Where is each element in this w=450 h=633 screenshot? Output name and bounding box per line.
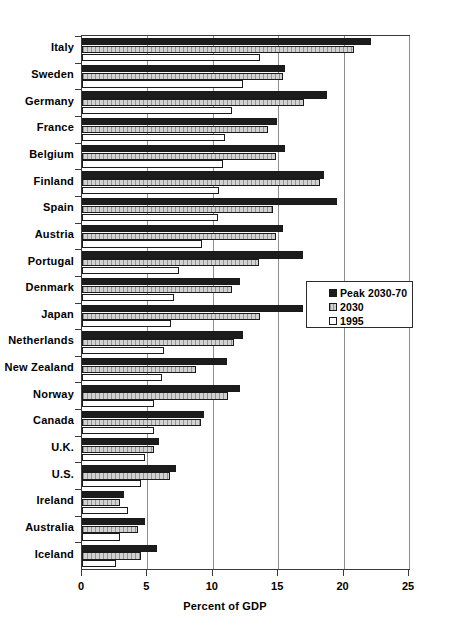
bar	[82, 73, 283, 80]
y-axis-label-iceland: Iceland	[35, 548, 74, 560]
y-axis-label-sweden: Sweden	[31, 68, 74, 80]
y-axis-label-portugal: Portugal	[28, 255, 74, 267]
bar	[82, 54, 260, 61]
bar-group	[82, 249, 409, 276]
bar	[82, 286, 232, 293]
y-axis-label-finland: Finland	[33, 175, 74, 187]
y-axis-tick	[75, 356, 81, 357]
y-axis-label-u-s-: U.S.	[52, 468, 74, 480]
bar	[82, 374, 162, 381]
bar	[82, 533, 120, 540]
bar-group	[82, 382, 409, 409]
bar	[82, 198, 337, 205]
bar	[82, 278, 240, 285]
bar	[82, 160, 223, 167]
y-axis-label-australia: Australia	[25, 521, 74, 533]
bar	[82, 339, 234, 346]
bar	[82, 313, 260, 320]
y-axis-label-france: France	[37, 121, 74, 133]
bar	[82, 65, 285, 72]
bar	[82, 91, 327, 98]
y-axis-label-ireland: Ireland	[37, 494, 74, 506]
x-axis-tick-label: 5	[126, 580, 166, 592]
y-axis-tick	[75, 249, 81, 250]
bar-group	[82, 89, 409, 116]
y-axis-label-austria: Austria	[35, 228, 74, 240]
bar-group	[82, 436, 409, 463]
bar	[82, 118, 277, 125]
bar-group	[82, 223, 409, 250]
bar	[82, 331, 243, 338]
y-axis-tick	[75, 409, 81, 410]
y-axis-tick	[75, 436, 81, 437]
bar	[82, 358, 227, 365]
y-axis-tick	[75, 116, 81, 117]
bar-group	[82, 169, 409, 196]
y-axis-label-u-k-: U.K.	[51, 441, 74, 453]
legend-item: 2030	[329, 300, 412, 313]
y-axis-tick	[75, 489, 81, 490]
bar-group	[82, 329, 409, 356]
bar-group	[82, 409, 409, 436]
y-axis-label-germany: Germany	[25, 95, 74, 107]
y-axis-tick	[75, 276, 81, 277]
bar-group	[82, 462, 409, 489]
x-axis-tick-label: 0	[61, 580, 101, 592]
y-axis-label-italy: Italy	[51, 41, 74, 53]
bar	[82, 267, 179, 274]
bar	[82, 385, 240, 392]
y-axis-tick	[75, 89, 81, 90]
bar	[82, 366, 196, 373]
bar	[82, 99, 304, 106]
bar	[82, 305, 303, 312]
bar	[82, 171, 324, 178]
bar	[82, 472, 170, 479]
bar	[82, 438, 159, 445]
y-axis-tick	[75, 169, 81, 170]
x-axis-tick	[343, 570, 344, 576]
x-axis-tick	[212, 570, 213, 576]
bar	[82, 560, 116, 567]
y-axis-tick	[75, 196, 81, 197]
legend-swatch-peak-icon	[329, 289, 337, 297]
y-axis-tick	[75, 303, 81, 304]
y-axis-label-netherlands: Netherlands	[8, 334, 74, 346]
bar	[82, 320, 171, 327]
bar	[82, 400, 154, 407]
bar	[82, 518, 145, 525]
bar	[82, 259, 259, 266]
bar	[82, 419, 201, 426]
x-axis-tick-label: 20	[323, 580, 363, 592]
y-axis-tick	[75, 36, 81, 37]
y-axis-tick	[75, 63, 81, 64]
bar	[82, 179, 320, 186]
bar	[82, 392, 228, 399]
bar	[82, 499, 120, 506]
y-axis-label-belgium: Belgium	[29, 148, 74, 160]
legend-item: Peak 2030-70	[329, 286, 412, 299]
y-axis-tick	[75, 329, 81, 330]
bar-group	[82, 542, 409, 569]
bar	[82, 80, 243, 87]
bar	[82, 480, 141, 487]
x-axis-tick-label: 10	[192, 580, 232, 592]
bar	[82, 552, 141, 559]
y-axis-tick	[75, 542, 81, 543]
bar	[82, 187, 219, 194]
bar	[82, 145, 285, 152]
horizontal-bar-chart: ItalySwedenGermanyFranceBelgiumFinlandSp…	[0, 0, 450, 633]
bar	[82, 206, 273, 213]
bar	[82, 153, 276, 160]
x-axis-tick	[81, 570, 82, 576]
bar	[82, 107, 232, 114]
bar-group	[82, 63, 409, 90]
y-axis-tick	[75, 143, 81, 144]
legend-label: 1995	[340, 315, 364, 327]
legend-label: 2030	[340, 301, 364, 313]
x-axis-tick	[408, 570, 409, 576]
legend-swatch-1995-icon	[329, 317, 337, 325]
bar	[82, 545, 157, 552]
bar	[82, 233, 276, 240]
bar-group	[82, 516, 409, 543]
bar-group	[82, 36, 409, 63]
